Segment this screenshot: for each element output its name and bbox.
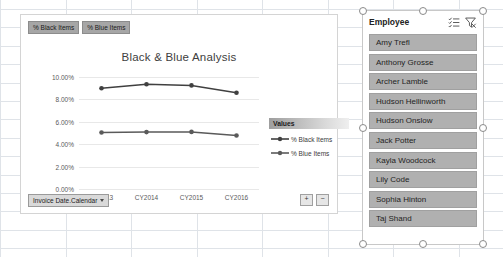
- series-data-point[interactable]: [234, 133, 239, 138]
- field-button-black-items[interactable]: % Black Items: [28, 21, 79, 34]
- pivot-chart-object[interactable]: % Black Items % Blue Items Black & Blue …: [20, 14, 338, 214]
- slicer-item[interactable]: Archer Lamble: [369, 73, 477, 90]
- grid-line-vertical: [0, 0, 1, 257]
- multi-select-icon[interactable]: [448, 16, 461, 29]
- legend-marker-blue-icon: [271, 149, 289, 157]
- selection-handle[interactable]: [359, 124, 367, 132]
- slicer-item[interactable]: Lily Code: [369, 171, 477, 188]
- grid-line-horizontal: [0, 248, 503, 249]
- chart-gridline: [79, 189, 259, 190]
- series-data-point[interactable]: [144, 82, 149, 87]
- chevron-down-icon[interactable]: [100, 199, 104, 202]
- y-axis-tick-label: 2.00%: [56, 163, 74, 170]
- series-data-point[interactable]: [189, 83, 194, 88]
- selection-handle[interactable]: [359, 240, 367, 248]
- legend-marker-black-icon: [271, 135, 289, 143]
- x-axis-tick-label: CY2014: [135, 194, 159, 201]
- series-line[interactable]: [102, 132, 237, 136]
- series-data-point[interactable]: [234, 90, 239, 95]
- slicer-item-list: Amy TreflAnthony GrosseArcher LambleHuds…: [369, 34, 477, 239]
- slicer-item[interactable]: Anthony Grosse: [369, 54, 477, 71]
- x-axis-tick-label: CY2015: [180, 194, 204, 201]
- chart-expand-controls: + −: [300, 194, 329, 206]
- selection-handle[interactable]: [419, 7, 427, 15]
- y-axis-tick-label: 4.00%: [56, 141, 74, 148]
- legend-entry-black-items: % Black Items: [269, 135, 349, 143]
- series-data-point[interactable]: [99, 86, 104, 91]
- series-line[interactable]: [102, 84, 237, 92]
- slicer-item[interactable]: Taj Shand: [369, 210, 477, 227]
- slicer-item[interactable]: Jack Potter: [369, 132, 477, 149]
- slicer-item[interactable]: Hudson Onslow: [369, 112, 477, 129]
- employee-slicer[interactable]: Employee Amy TreflAnthony GrosseArcher L…: [362, 10, 484, 245]
- slicer-item[interactable]: Hudson Hellinworth: [369, 93, 477, 110]
- slicer-item[interactable]: Sophia Hinton: [369, 191, 477, 208]
- legend-label-blue-items: % Blue Items: [291, 150, 329, 157]
- selection-handle[interactable]: [419, 240, 427, 248]
- y-axis-tick-label: 0.00%: [56, 186, 74, 193]
- slicer-item[interactable]: Amy Trefl: [369, 34, 477, 51]
- field-button-blue-items[interactable]: % Blue Items: [82, 21, 130, 34]
- chart-plot-area: 0.00%2.00%4.00%6.00%8.00%10.00%CY2013CY2…: [79, 77, 259, 189]
- chart-title: Black & Blue Analysis: [21, 51, 337, 63]
- x-axis-tick-label: CY2016: [225, 194, 249, 201]
- selection-handle[interactable]: [479, 124, 487, 132]
- selection-handle[interactable]: [479, 7, 487, 15]
- legend-label-black-items: % Black Items: [291, 136, 332, 143]
- series-data-point[interactable]: [189, 130, 194, 135]
- selection-handle[interactable]: [359, 7, 367, 15]
- chart-legend: Values % Black Items % Blue Items: [269, 118, 349, 157]
- chart-series-layer: [79, 77, 259, 189]
- legend-entry-blue-items: % Blue Items: [269, 149, 349, 157]
- expand-field-button[interactable]: +: [300, 194, 313, 206]
- series-data-point[interactable]: [144, 130, 149, 135]
- series-data-point[interactable]: [99, 130, 104, 135]
- y-axis-tick-label: 6.00%: [56, 118, 74, 125]
- chart-field-buttons: % Black Items % Blue Items: [28, 21, 130, 34]
- slicer-item[interactable]: Kayla Woodcock: [369, 152, 477, 169]
- legend-header[interactable]: Values: [269, 118, 349, 129]
- collapse-field-button[interactable]: −: [316, 194, 329, 206]
- axis-field-button-label: Invoice Date.Calendar: [33, 197, 97, 204]
- slicer-title: Employee: [369, 17, 445, 27]
- y-axis-tick-label: 10.00%: [52, 74, 74, 81]
- clear-filter-icon[interactable]: [464, 16, 477, 29]
- selection-handle[interactable]: [479, 240, 487, 248]
- y-axis-tick-label: 8.00%: [56, 96, 74, 103]
- axis-field-button-invoice-date[interactable]: Invoice Date.Calendar: [28, 194, 109, 207]
